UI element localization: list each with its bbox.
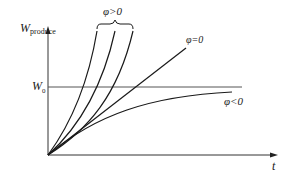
x-axis-symbol: t <box>272 159 275 173</box>
w0-subscript: 0 <box>42 87 46 95</box>
label-phi-negative: φ<0 <box>224 96 243 107</box>
x-axis-label: t <box>272 160 275 172</box>
x-axis-arrow-icon <box>270 153 278 158</box>
label-phi-zero: φ=0 <box>186 35 203 45</box>
brace-phi-positive <box>97 20 133 29</box>
label-phi-positive: φ>0 <box>103 6 122 17</box>
w0-label: W0 <box>32 80 46 95</box>
w0-symbol: W <box>32 79 42 93</box>
y-axis-symbol: W <box>20 21 30 35</box>
y-axis-label: Wproduce <box>20 22 56 36</box>
y-axis-subscript: produce <box>30 27 56 36</box>
